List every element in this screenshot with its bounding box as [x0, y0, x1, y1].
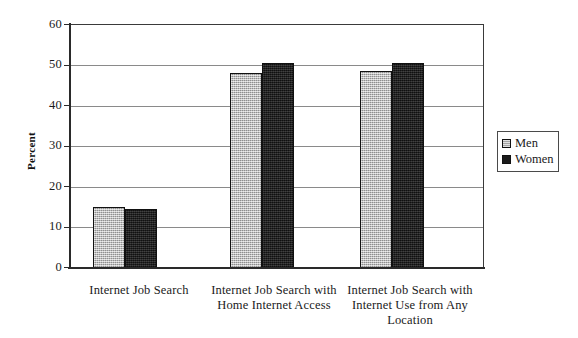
category-label-line: Internet Use from Any	[340, 298, 480, 313]
y-axis-tick-label: 60	[22, 18, 62, 31]
bar-chart: Percent 60 50 40 30 20 10 0 Inter	[0, 0, 578, 338]
x-axis-category-label-1: Internet Job Search	[72, 283, 206, 298]
y-axis-line	[69, 23, 71, 269]
legend-item-women: Women	[502, 151, 554, 167]
x-axis-line	[68, 267, 485, 269]
y-axis-tick-label: 30	[22, 139, 62, 152]
bar-men-any-location	[360, 71, 392, 269]
y-axis-tick-labels: 60 50 40 30 20 10 0	[18, 0, 62, 338]
x-axis-category-label-2: Internet Job Search with Home Internet A…	[206, 283, 342, 313]
bar-women-home-internet-access	[262, 63, 294, 269]
legend: Men Women	[497, 131, 559, 172]
bar-women-any-location	[392, 63, 424, 269]
legend-swatch-women-icon	[502, 155, 511, 164]
category-label-line: Home Internet Access	[206, 298, 342, 313]
legend-label-women: Women	[515, 153, 554, 166]
y-axis-tick-label: 20	[22, 180, 62, 193]
category-label-line: Internet Job Search with	[340, 283, 480, 298]
y-axis-tick-label: 40	[22, 99, 62, 112]
y-axis-tick-label: 0	[22, 261, 62, 274]
plot-area	[69, 24, 484, 268]
bar-men-home-internet-access	[230, 73, 262, 269]
y-axis-tick-label: 10	[22, 220, 62, 233]
bar-women-internet-job-search	[125, 209, 157, 269]
legend-item-men: Men	[502, 135, 554, 151]
legend-label-men: Men	[515, 137, 538, 150]
bar-men-internet-job-search	[93, 207, 125, 269]
category-label-line: Internet Job Search	[72, 283, 206, 298]
category-label-line: Location	[340, 313, 480, 328]
category-label-line: Internet Job Search with	[206, 283, 342, 298]
x-axis-category-label-3: Internet Job Search with Internet Use fr…	[340, 283, 480, 328]
legend-swatch-men-icon	[502, 139, 511, 148]
y-axis-tick-label: 50	[22, 58, 62, 71]
